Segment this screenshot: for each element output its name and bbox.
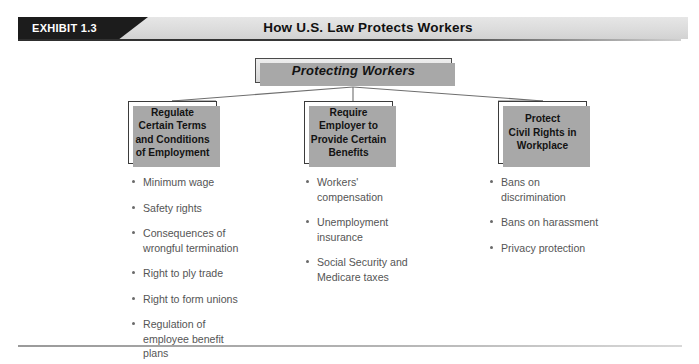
header-underline: [18, 39, 681, 41]
bullet-item: Social Security and Medicare taxes: [305, 255, 417, 284]
bullet-item: Privacy protection: [489, 241, 599, 256]
node-regulate-terms[interactable]: RegulateCertain Termsand Conditionsof Em…: [128, 101, 217, 164]
node-protect-civil-rights-label: ProtectCivil Rights inWorkplace: [506, 112, 580, 152]
node-protecting-workers[interactable]: Protecting Workers: [255, 58, 452, 83]
node-require-benefits[interactable]: RequireEmployer toProvide CertainBenefit…: [304, 101, 393, 164]
bullet-item-label: Right to ply trade: [143, 267, 223, 279]
bullet-dot-icon: [490, 220, 493, 223]
bullet-item: Workers' compensation: [305, 175, 417, 204]
bullet-item: Regulation of employee benefit plans: [131, 317, 239, 361]
bullet-item-label: Workers' compensation: [317, 176, 383, 203]
bullet-list-require: Workers' compensationUnemployment insura…: [305, 175, 417, 284]
bullet-item-label: Minimum wage: [143, 176, 214, 188]
bullet-item-label: Regulation of employee benefit plans: [143, 318, 224, 359]
bullet-item-label: Bans on discrimination: [501, 176, 566, 203]
bullet-list-regulate: Minimum wageSafety rightsConsequences of…: [131, 175, 239, 361]
bullet-item-label: Privacy protection: [501, 242, 585, 254]
bullet-item: Right to form unions: [131, 292, 239, 307]
bullet-item: Consequences of wrongful termination: [131, 226, 239, 255]
bullet-dot-icon: [132, 297, 135, 300]
bullet-item-label: Safety rights: [143, 202, 202, 214]
bullet-item: Bans on harassment: [489, 215, 599, 230]
bullet-dot-icon: [306, 180, 309, 183]
bullet-item-label: Consequences of wrongful termination: [143, 227, 238, 254]
bullet-dot-icon: [490, 180, 493, 183]
bullet-dot-icon: [132, 206, 135, 209]
bullet-dot-icon: [490, 246, 493, 249]
bullet-dot-icon: [306, 220, 309, 223]
node-require-benefits-label: RequireEmployer toProvide CertainBenefit…: [308, 106, 389, 160]
bullet-dot-icon: [132, 271, 135, 274]
footer-rule: [18, 345, 682, 347]
bullet-list-protect: Bans on discriminationBans on harassment…: [489, 175, 599, 255]
bullet-item: Minimum wage: [131, 175, 239, 190]
node-regulate-terms-label: RegulateCertain Termsand Conditionsof Em…: [132, 106, 212, 160]
bullet-dot-icon: [132, 231, 135, 234]
bullet-dot-icon: [306, 260, 309, 263]
bullet-item: Safety rights: [131, 201, 239, 216]
exhibit-tag-label: EXHIBIT 1.3: [32, 17, 97, 39]
connector-left: [172, 87, 353, 101]
bullet-item-label: Social Security and Medicare taxes: [317, 256, 408, 283]
bullet-dot-icon: [132, 180, 135, 183]
node-protecting-workers-label: Protecting Workers: [256, 59, 451, 82]
exhibit-figure: How U.S. Law Protects Workers EXHIBIT 1.…: [0, 0, 699, 364]
bullet-item-label: Unemployment insurance: [317, 216, 388, 243]
node-protect-civil-rights[interactable]: ProtectCivil Rights inWorkplace: [498, 101, 587, 164]
bullet-item: Bans on discrimination: [489, 175, 599, 204]
bullet-dot-icon: [132, 322, 135, 325]
exhibit-header: How U.S. Law Protects Workers EXHIBIT 1.…: [18, 17, 688, 39]
bullet-item-label: Bans on harassment: [501, 216, 598, 228]
bullet-item: Unemployment insurance: [305, 215, 417, 244]
bullet-item-label: Right to form unions: [143, 293, 238, 305]
bullet-item: Right to ply trade: [131, 266, 239, 281]
connector-right: [353, 87, 543, 101]
